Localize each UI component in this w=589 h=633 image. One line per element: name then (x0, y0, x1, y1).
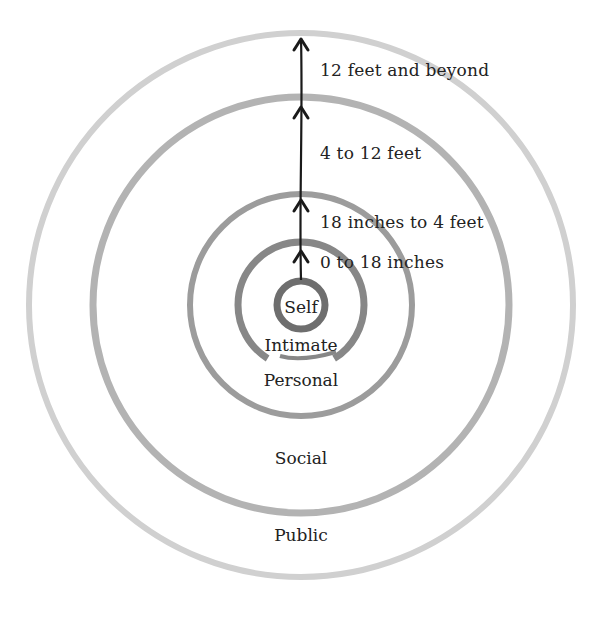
zone-label-social: Social (275, 448, 327, 468)
arrow-shaft (300, 38, 301, 280)
zone-label-self: Self (284, 297, 317, 317)
distance-label-social: 4 to 12 feet (320, 143, 421, 163)
distance-label-personal: 18 inches to 4 feet (320, 212, 484, 232)
distance-label-intimate: 0 to 18 inches (320, 252, 444, 272)
distance-label-public: 12 feet and beyond (320, 60, 489, 80)
zone-label-intimate: Intimate (264, 335, 337, 355)
zone-label-public: Public (274, 525, 328, 545)
zone-label-personal: Personal (264, 370, 338, 390)
